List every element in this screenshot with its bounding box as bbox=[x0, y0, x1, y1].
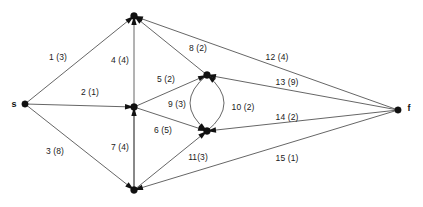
node-n_center bbox=[131, 104, 138, 111]
edge-label-12: 12 (4) bbox=[266, 53, 289, 62]
edge-2-line bbox=[25, 104, 134, 107]
node-label-s: s bbox=[11, 100, 16, 109]
edge-label-2: 2 (1) bbox=[81, 88, 99, 97]
edge-15-line bbox=[134, 110, 398, 190]
node-n_bottom bbox=[131, 187, 138, 194]
edge-label-14: 14 (2) bbox=[276, 113, 299, 122]
edge-label-15: 15 (1) bbox=[276, 154, 299, 163]
edge-label-6: 6 (5) bbox=[154, 126, 172, 135]
edge-label-10: 10 (2) bbox=[232, 103, 255, 112]
node-label-f: f bbox=[408, 104, 411, 113]
edge-label-13: 13 (9) bbox=[276, 78, 299, 87]
edge-label-4: 4 (4) bbox=[111, 56, 129, 65]
edge-label-9: 9 (3) bbox=[168, 100, 186, 109]
edge-9-curve bbox=[190, 75, 207, 131]
edge-14-line bbox=[207, 110, 398, 131]
node-f bbox=[395, 107, 401, 113]
edges-group bbox=[25, 16, 398, 190]
edge-label-8: 8 (2) bbox=[189, 44, 207, 53]
graph-canvas-svg bbox=[0, 0, 423, 207]
edge-label-1: 1 (3) bbox=[49, 53, 67, 62]
edge-label-11: 11(3) bbox=[188, 153, 208, 162]
node-n_top bbox=[131, 13, 138, 20]
graph-diagram: 1 (3)2 (1)3 (8)4 (4)5 (2)6 (5)7 (4)8 (2)… bbox=[0, 0, 423, 207]
node-n_lr bbox=[204, 128, 211, 135]
edge-label-3: 3 (8) bbox=[46, 147, 64, 156]
node-s bbox=[22, 101, 28, 107]
edge-label-7: 7 (4) bbox=[111, 143, 129, 152]
node-n_ur bbox=[204, 72, 211, 79]
edge-12-line bbox=[134, 16, 398, 110]
edge-label-5: 5 (2) bbox=[157, 75, 175, 84]
edge-10-curve bbox=[207, 75, 224, 131]
